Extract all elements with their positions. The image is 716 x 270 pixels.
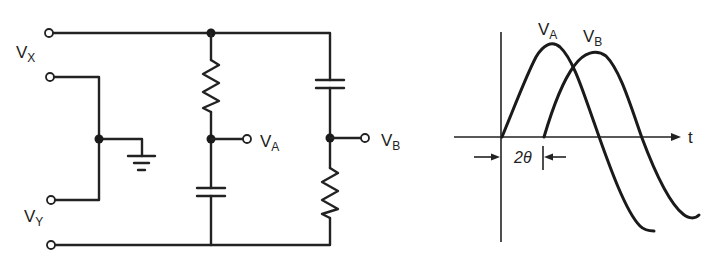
x-axis-label: t xyxy=(688,128,693,147)
ground-icon xyxy=(128,156,155,170)
circuit-and-waveform-figure: VX VY VA VB xyxy=(0,0,716,270)
vy-bottom-terminal xyxy=(47,241,55,249)
ground-junction-dot xyxy=(95,135,104,144)
phase-left-arrowhead-icon xyxy=(491,154,500,161)
waveform-graph: t VA VB 2θ xyxy=(454,20,699,242)
phase-right-arrowhead-icon xyxy=(544,154,553,161)
va-output-terminal xyxy=(243,135,251,143)
top-rail-wire xyxy=(53,33,330,80)
vb-output-terminal xyxy=(361,134,369,142)
center-tap-wire xyxy=(54,77,99,200)
ground-link-wire xyxy=(99,139,142,156)
vb-output-label: VB xyxy=(381,131,400,153)
vy-label: VY xyxy=(24,207,43,229)
figure: VX VY VA VB xyxy=(0,0,716,270)
circuit-diagram: VX VY VA VB xyxy=(16,29,400,250)
vb-curve-label: VB xyxy=(583,27,602,49)
vx-top-terminal xyxy=(45,29,53,37)
vx-label: VX xyxy=(16,43,35,65)
x-axis-arrowhead xyxy=(671,133,681,141)
resistor-b-icon xyxy=(322,168,338,218)
va-output-label: VA xyxy=(260,132,279,154)
va-curve-label: VA xyxy=(538,20,557,42)
bottom-rail-wire xyxy=(53,218,330,245)
phase-shift-label: 2θ xyxy=(513,149,532,166)
resistor-a-icon xyxy=(203,60,219,112)
phase-shift-annotation: 2θ xyxy=(474,146,566,170)
